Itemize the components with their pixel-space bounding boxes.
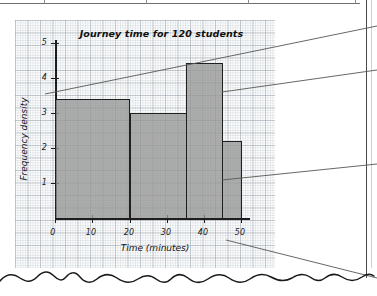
scanned-worksheet-page: Journey time for 120 students 5 4 3 2 1 …: [0, 0, 377, 296]
page-edge-line: [366, 0, 367, 278]
torn-paper-edge: [0, 272, 374, 282]
graph-paper-grid: [15, 20, 275, 268]
page-edge-line-shadow: [371, 0, 372, 268]
table-cell-divider: [248, 0, 249, 4]
table-bottom-border: [0, 0, 360, 5]
table-cell-divider: [146, 0, 147, 4]
table-cell-divider: [355, 0, 356, 4]
table-cell-divider: [44, 0, 45, 4]
table-border-line: [0, 3, 360, 4]
